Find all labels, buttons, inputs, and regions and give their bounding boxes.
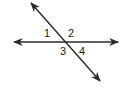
angle-label-4: 4 [79, 45, 85, 57]
angle-label-2: 2 [68, 27, 74, 39]
angle-label-1: 1 [44, 27, 50, 39]
intersecting-lines-diagram: 1 2 3 4 [0, 0, 124, 90]
angle-label-3: 3 [60, 45, 66, 57]
